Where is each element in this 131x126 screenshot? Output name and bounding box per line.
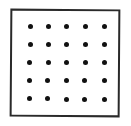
grid-dot <box>102 42 107 47</box>
grid-dot <box>83 60 88 65</box>
grid-dot <box>28 42 33 47</box>
grid-dot <box>82 97 87 102</box>
grid-dot <box>83 24 88 29</box>
grid-dot <box>83 42 88 47</box>
grid-dot <box>102 97 107 102</box>
grid-dot <box>46 24 51 29</box>
grid-dot <box>64 42 69 47</box>
grid-dot <box>45 96 50 101</box>
grid-dot <box>46 60 51 65</box>
grid-dot <box>82 78 87 83</box>
grid-dot <box>27 78 32 83</box>
grid-dot <box>64 60 69 65</box>
grid-dot <box>102 78 107 83</box>
grid-dot <box>102 60 107 65</box>
grid-dot <box>102 24 107 29</box>
grid-dot <box>64 24 69 29</box>
grid-dot <box>46 42 51 47</box>
grid-dot <box>45 78 50 83</box>
grid-dot <box>64 97 69 102</box>
grid-dot <box>27 96 32 101</box>
grid-dot <box>28 24 33 29</box>
grid-dot <box>27 60 32 65</box>
grid-dot <box>64 78 69 83</box>
